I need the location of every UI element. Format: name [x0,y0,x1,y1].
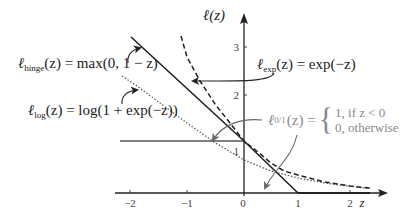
formula-text: (z) = max(0, 1 − z) [44,55,158,71]
y-axis [240,13,248,196]
x-tick-label: −1 [181,197,193,209]
x-tick-label: −2 [124,197,136,209]
y-tick-label: 2 [234,89,240,101]
case-2: 0, otherwise [335,120,399,135]
log-loss-label: ℓlog(z) = log(1 + exp(−z)) [28,103,178,120]
formula-text: (z) = [287,113,316,128]
x-tick-label: 2 [347,197,353,209]
subscript: 0/1 [274,116,286,125]
formula-text: (z) = log(1 + exp(−z)) [46,102,178,118]
y-tick-label: 3 [234,41,240,53]
zero-one-loss-label: ℓ0/1(z) = { 1, if z < 0 0, otherwise [268,105,399,135]
case-1: 1, if z < 0 [335,105,399,120]
subscript: hinge [24,63,44,73]
hinge-loss-label: ℓhinge(z) = max(0, 1 − z) [18,56,158,73]
brace-icon: { [319,104,333,136]
x-axis-label: z [358,195,364,210]
zero-one-loss-curve [120,141,370,193]
exp-arrow-icon [193,73,274,81]
zero-one-arrow-icon-left [213,120,262,140]
subscript: exp [263,64,276,74]
y-axis-label: ℓ(z) [203,7,225,24]
subscript: log [34,110,46,120]
x-tick-label: 0 [240,197,246,209]
x-tick-label: 1 [295,197,301,209]
exp-loss-label: ℓexp(z) = exp(−z) [257,57,356,74]
formula-text: (z) = exp(−z) [276,56,355,72]
